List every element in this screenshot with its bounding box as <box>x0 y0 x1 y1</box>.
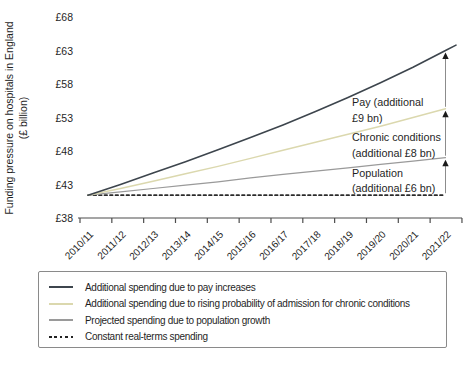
legend-swatch-chronic-line <box>49 303 73 305</box>
x-tick-label: 2014/15 <box>192 228 226 262</box>
y-axis-title: (£ billion) <box>17 97 29 140</box>
legend-item-pay: Additional spending due to pay increases <box>49 279 442 296</box>
y-tick-label: £38 <box>55 212 73 224</box>
increment-arrowhead-icon <box>442 160 448 167</box>
y-axis-title: Funding pressure on hospitals in England <box>3 21 15 214</box>
annotation-pay: Pay (additional <box>352 96 423 108</box>
x-tick-label: 2020/21 <box>387 228 421 262</box>
legend-item-population: Projected spending due to population gro… <box>49 312 442 329</box>
legend-swatch-population-line <box>49 319 73 321</box>
legend-label-constant: Constant real-terms spending <box>85 331 208 342</box>
legend-item-chronic: Additional spending due to rising probab… <box>49 296 442 313</box>
x-tick-label: 2021/22 <box>420 228 454 262</box>
y-tick-label: £43 <box>55 179 73 191</box>
x-tick-label: 2011/12 <box>95 228 128 261</box>
x-tick-label: 2018/19 <box>322 228 356 262</box>
legend-swatch-pay-line <box>49 286 73 288</box>
x-tick-label: 2015/16 <box>225 228 259 262</box>
y-tick-label: £63 <box>55 45 73 57</box>
x-tick-label: 2013/14 <box>160 228 194 262</box>
y-tick-label: £58 <box>55 78 73 90</box>
annotation-chronic: Chronic conditions <box>352 131 441 143</box>
y-tick-label: £68 <box>55 11 73 23</box>
legend-swatch-constant-dashed-line <box>49 336 73 338</box>
x-tick-label: 2010/11 <box>63 228 96 261</box>
x-tick-label: 2012/13 <box>127 228 161 262</box>
x-tick-label: 2016/17 <box>257 228 291 262</box>
x-tick-label: 2019/20 <box>355 228 389 262</box>
plot-svg: £38£43£48£53£58£63£68Funding pressure on… <box>0 0 472 268</box>
x-tick-label: 2017/18 <box>290 228 324 262</box>
legend-label-pay: Additional spending due to pay increases <box>85 282 255 293</box>
increment-arrowhead-icon <box>442 53 448 60</box>
annotation-pay: £9 bn) <box>352 112 383 124</box>
chart-legend: Additional spending due to pay increases… <box>38 271 447 348</box>
legend-label-population: Projected spending due to population gro… <box>85 315 270 326</box>
annotation-population: Population <box>352 167 403 179</box>
increment-arrowhead-icon <box>442 111 448 118</box>
y-tick-label: £48 <box>55 145 73 157</box>
legend-label-chronic: Additional spending due to rising probab… <box>85 298 410 309</box>
chart-figure: £38£43£48£53£58£63£68Funding pressure on… <box>0 0 472 365</box>
legend-item-constant: Constant real-terms spending <box>49 329 442 346</box>
y-tick-label: £53 <box>55 112 73 124</box>
annotation-chronic: (additional £8 bn) <box>352 147 435 159</box>
annotation-population: (additional £6 bn) <box>352 182 435 194</box>
